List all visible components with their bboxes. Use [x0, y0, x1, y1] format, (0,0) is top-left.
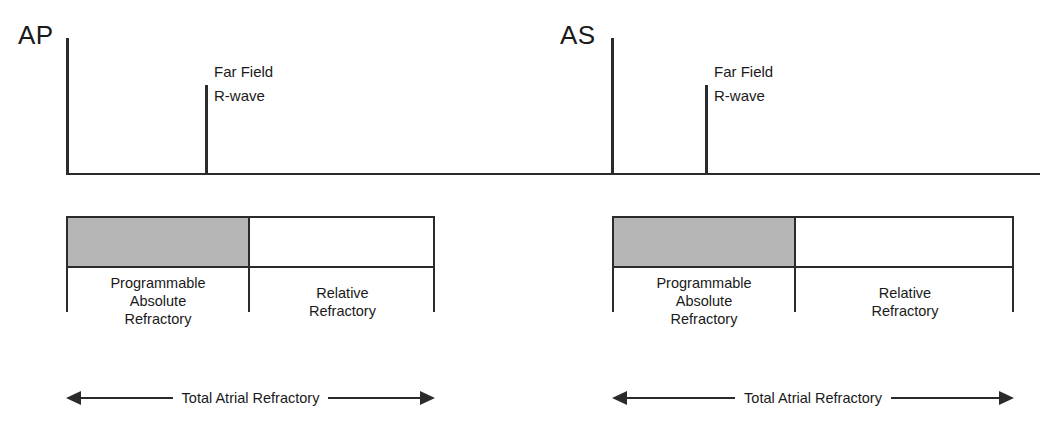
refractory-block-left: Programmable Absolute Refractory Relativ…: [66, 216, 435, 316]
event-spike-as: [611, 38, 614, 175]
absolute-refractory-segment-left: [68, 218, 250, 266]
arrow-right-icon: [420, 391, 435, 405]
arrow-line-right-segment: [328, 397, 420, 399]
arrow-left-icon: [612, 391, 627, 405]
arrow-line-left-segment: [627, 397, 735, 399]
refractory-bar-right: [612, 216, 1014, 268]
absolute-refractory-segment-right: [614, 218, 796, 266]
far-field-spike-right: [705, 85, 708, 175]
relative-refractory-segment-right: [796, 218, 1012, 266]
refractory-block-right: Programmable Absolute Refractory Relativ…: [612, 216, 1014, 316]
refractory-bar-left: [66, 216, 435, 268]
relative-refractory-caption-left: Relative Refractory: [250, 284, 435, 320]
far-field-label-left-line2: R-wave: [214, 86, 265, 105]
absolute-caption-right-line1: Programmable: [612, 274, 796, 292]
far-field-label-right-line2: R-wave: [714, 86, 765, 105]
event-label-ap: AP: [18, 22, 54, 48]
relative-caption-left-line1: Relative: [250, 284, 435, 302]
absolute-caption-left-line2: Absolute: [66, 292, 250, 310]
absolute-caption-left-line1: Programmable: [66, 274, 250, 292]
arrow-line-left-segment: [81, 397, 173, 399]
total-atrial-refractory-left: Total Atrial Refractory: [66, 386, 435, 410]
timing-baseline: [66, 173, 1040, 175]
absolute-caption-right-line2: Absolute: [612, 292, 796, 310]
event-label-as: AS: [560, 22, 596, 48]
arrow-left-icon: [66, 391, 81, 405]
absolute-caption-left-line3: Refractory: [66, 310, 250, 328]
arrow-line-right-segment: [891, 397, 999, 399]
far-field-label-left-line1: Far Field: [214, 62, 273, 81]
relative-refractory-caption-right: Relative Refractory: [796, 284, 1014, 320]
total-atrial-refractory-right: Total Atrial Refractory: [612, 386, 1014, 410]
relative-caption-left-line2: Refractory: [250, 302, 435, 320]
relative-caption-right-line2: Refractory: [796, 302, 1014, 320]
event-spike-ap: [66, 38, 69, 175]
absolute-caption-right-line3: Refractory: [612, 310, 796, 328]
arrow-right-icon: [999, 391, 1014, 405]
absolute-refractory-caption-left: Programmable Absolute Refractory: [66, 274, 250, 328]
absolute-refractory-caption-right: Programmable Absolute Refractory: [612, 274, 796, 328]
relative-caption-right-line1: Relative: [796, 284, 1014, 302]
total-atrial-refractory-label-right: Total Atrial Refractory: [735, 391, 891, 406]
far-field-spike-left: [205, 85, 208, 175]
refractory-timing-diagram: AP Far Field R-wave AS Far Field R-wave …: [0, 0, 1064, 434]
far-field-label-right-line1: Far Field: [714, 62, 773, 81]
relative-refractory-segment-left: [250, 218, 433, 266]
total-atrial-refractory-label-left: Total Atrial Refractory: [173, 391, 329, 406]
